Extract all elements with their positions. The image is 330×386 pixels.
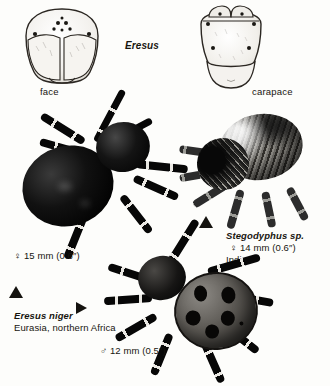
eresus-niger-female-photo: [18, 108, 178, 253]
eresus-female-measurement: ♀ 15 mm (0.6″): [14, 250, 80, 261]
face-diagram: [16, 6, 108, 86]
carapace-caption: carapace: [252, 86, 293, 97]
genus-heading: Eresus: [125, 40, 159, 52]
face-caption: face: [40, 86, 59, 97]
species-name: Eresus niger: [14, 310, 73, 321]
arrow-up-stegodyphus: [199, 216, 213, 228]
species-range: Eurasia, northern Africa: [14, 322, 116, 333]
eresus-male-measurement: ♂ 12 mm (0.5″): [100, 345, 166, 356]
stegodyphus-photo: [185, 108, 330, 220]
carapace-diagram: [189, 4, 273, 94]
illustration-plate: face Eresus: [0, 0, 330, 386]
arrow-up-eresus-male: [9, 286, 23, 298]
arrow-right-eresus-female: [76, 302, 87, 314]
